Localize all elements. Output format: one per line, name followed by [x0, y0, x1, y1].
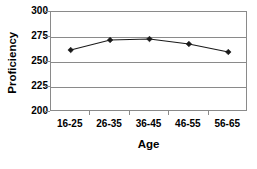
- y-tick-mark: [45, 36, 50, 37]
- plot-inner: [51, 12, 246, 110]
- x-tick-mark: [168, 111, 169, 115]
- x-tick-mark: [208, 111, 209, 115]
- x-tick-mark: [129, 111, 130, 115]
- x-tick-label: 56-65: [197, 118, 257, 129]
- y-axis-title-label: Proficiency: [7, 32, 19, 94]
- y-axis-tick-labels: 200225250275300: [24, 0, 48, 125]
- x-tick-mark: [89, 111, 90, 115]
- y-tick-mark: [45, 111, 50, 112]
- data-point-marker: [147, 36, 153, 42]
- data-point-marker: [226, 49, 232, 55]
- x-axis-tick-marks: [50, 111, 247, 116]
- data-point-marker: [186, 41, 192, 47]
- x-axis-tick-labels: 16-2526-3536-4546-5556-65: [50, 118, 247, 132]
- series-proficiency: [51, 12, 248, 112]
- line-chart: Proficiency 200225250275300 16-2526-3536…: [0, 0, 257, 169]
- y-tick-mark: [45, 11, 50, 12]
- y-axis-title: Proficiency: [0, 0, 26, 125]
- plot-area: [50, 11, 247, 111]
- y-tick-mark: [45, 61, 50, 62]
- data-point-marker: [107, 37, 113, 43]
- y-tick-mark: [45, 86, 50, 87]
- data-point-marker: [68, 47, 74, 53]
- x-axis-title: Age: [50, 139, 247, 151]
